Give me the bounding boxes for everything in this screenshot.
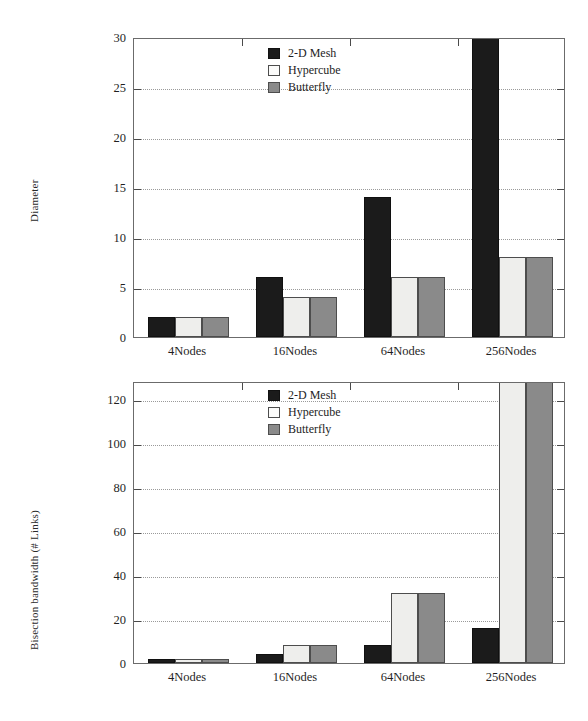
legend-entry: 2-D Mesh xyxy=(268,46,341,61)
legend-swatch-icon xyxy=(268,48,280,59)
bottom-chart-panel: Bisection bandwidth (# Links) 0204060801… xyxy=(0,360,588,721)
y-tick-mark xyxy=(134,445,141,446)
y-tick-mark xyxy=(134,533,141,534)
y-tick-label: 25 xyxy=(114,81,127,96)
bar xyxy=(391,277,418,337)
legend-entry: Butterfly xyxy=(268,80,341,95)
bottom-chart-y-tick-labels: 020406080100120 xyxy=(40,360,126,721)
bar xyxy=(472,38,499,337)
x-tick-mark xyxy=(350,383,351,390)
x-tick-label: 256Nodes xyxy=(486,344,537,359)
bar xyxy=(499,382,526,663)
gridline xyxy=(134,189,564,190)
legend-label: 2-D Mesh xyxy=(288,46,336,61)
y-tick-mark xyxy=(557,89,564,90)
bottom-chart-y-axis-label: Bisection bandwidth (# Links) xyxy=(28,510,40,650)
bar xyxy=(364,197,391,337)
y-tick-label: 60 xyxy=(114,524,127,539)
legend-label: 2-D Mesh xyxy=(288,388,336,403)
y-tick-mark xyxy=(557,189,564,190)
y-tick-mark xyxy=(557,577,564,578)
legend-label: Hypercube xyxy=(288,405,341,420)
y-tick-mark xyxy=(557,445,564,446)
x-tick-mark xyxy=(458,383,459,390)
y-tick-mark xyxy=(557,489,564,490)
y-tick-mark xyxy=(134,489,141,490)
y-tick-mark xyxy=(134,139,141,140)
bar xyxy=(202,317,229,337)
bar xyxy=(148,659,175,663)
y-tick-mark xyxy=(134,189,141,190)
y-tick-label: 15 xyxy=(114,181,127,196)
x-tick-mark xyxy=(350,39,351,46)
x-tick-mark xyxy=(458,39,459,46)
bar xyxy=(418,277,445,337)
y-tick-label: 120 xyxy=(107,392,126,407)
legend-swatch-icon xyxy=(268,82,280,93)
bottom-chart-legend: 2-D MeshHypercubeButterfly xyxy=(268,388,341,439)
y-tick-mark xyxy=(557,289,564,290)
legend-swatch-icon xyxy=(268,407,280,418)
x-tick-mark xyxy=(242,39,243,46)
top-chart-legend: 2-D MeshHypercubeButterfly xyxy=(268,46,341,97)
x-tick-label: 16Nodes xyxy=(273,670,317,685)
top-chart-y-tick-labels: 051015202530 xyxy=(40,0,126,360)
x-tick-label: 4Nodes xyxy=(168,344,206,359)
legend-entry: Hypercube xyxy=(268,405,341,420)
bar xyxy=(310,297,337,337)
y-tick-mark xyxy=(134,289,141,290)
legend-swatch-icon xyxy=(268,65,280,76)
y-tick-mark xyxy=(557,533,564,534)
bar xyxy=(175,317,202,337)
bar xyxy=(418,593,445,664)
legend-label: Butterfly xyxy=(288,422,331,437)
y-tick-mark xyxy=(134,577,141,578)
y-tick-label: 20 xyxy=(114,131,127,146)
legend-label: Hypercube xyxy=(288,63,341,78)
y-tick-label: 100 xyxy=(107,436,126,451)
x-tick-label: 16Nodes xyxy=(273,344,317,359)
y-tick-mark xyxy=(134,621,141,622)
top-chart-panel: Diameter 051015202530 4Nodes16Nodes64Nod… xyxy=(0,0,588,360)
y-tick-mark xyxy=(557,139,564,140)
x-tick-label: 4Nodes xyxy=(168,670,206,685)
x-tick-label: 256Nodes xyxy=(486,670,537,685)
bar xyxy=(364,645,391,663)
bar xyxy=(256,654,283,663)
bar xyxy=(202,659,229,663)
y-tick-mark xyxy=(557,401,564,402)
bar xyxy=(472,628,499,663)
y-tick-mark xyxy=(557,621,564,622)
y-tick-label: 40 xyxy=(114,568,127,583)
legend-entry: Butterfly xyxy=(268,422,341,437)
bottom-chart-plot-area xyxy=(133,382,565,664)
y-tick-mark xyxy=(134,89,141,90)
bar xyxy=(526,257,553,337)
y-tick-label: 30 xyxy=(114,31,127,46)
legend-label: Butterfly xyxy=(288,80,331,95)
y-tick-label: 80 xyxy=(114,480,127,495)
x-tick-label: 64Nodes xyxy=(381,344,425,359)
legend-swatch-icon xyxy=(268,390,280,401)
x-tick-mark xyxy=(242,383,243,390)
top-chart-y-axis-label: Diameter xyxy=(28,179,40,222)
gridline xyxy=(134,89,564,90)
legend-entry: Hypercube xyxy=(268,63,341,78)
y-tick-label: 10 xyxy=(114,231,127,246)
bar xyxy=(499,257,526,337)
bar xyxy=(391,593,418,664)
y-tick-label: 20 xyxy=(114,612,127,627)
y-tick-mark xyxy=(557,239,564,240)
bar xyxy=(310,645,337,663)
gridline xyxy=(134,139,564,140)
bar xyxy=(256,277,283,337)
bar xyxy=(283,297,310,337)
bar xyxy=(283,645,310,663)
legend-entry: 2-D Mesh xyxy=(268,388,341,403)
y-tick-mark xyxy=(134,401,141,402)
figure-two-bar-charts: Diameter 051015202530 4Nodes16Nodes64Nod… xyxy=(0,0,588,721)
y-tick-label: 5 xyxy=(120,281,126,296)
legend-swatch-icon xyxy=(268,424,280,435)
gridline xyxy=(134,239,564,240)
top-chart-plot-area xyxy=(133,38,565,338)
